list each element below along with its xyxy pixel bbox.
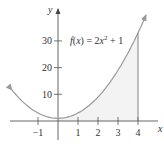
x-tick-label: 1	[76, 127, 81, 138]
y-axis-label: y	[47, 4, 53, 15]
y-tick-label: 20	[42, 62, 52, 73]
x-tick-label: 2	[96, 127, 101, 138]
x-tick-label: 3	[116, 127, 121, 138]
x-tick-label: −1	[33, 127, 44, 138]
x-tick-label: 4	[136, 127, 141, 138]
x-axis-label: x	[157, 123, 163, 134]
y-ticks: 102030	[42, 35, 62, 99]
y-tick-label: 30	[42, 35, 52, 46]
parabola-chart: −11234 102030 y x f(x) = 2x2 + 1	[0, 0, 164, 148]
function-label: f(x) = 2x2 + 1	[70, 34, 123, 47]
shaded-area	[58, 33, 138, 121]
y-tick-label: 10	[42, 89, 52, 100]
